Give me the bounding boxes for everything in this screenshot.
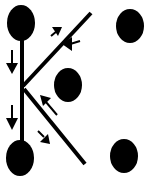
dot-center bbox=[54, 68, 82, 102]
k-stroke-diagram bbox=[0, 0, 148, 183]
dot-top-right bbox=[116, 9, 144, 43]
dot-bottom-right bbox=[110, 139, 138, 173]
arrow-down-upper-icon bbox=[6, 50, 18, 74]
arrow-down-right-icon bbox=[38, 131, 50, 144]
arrow-up-right-icon bbox=[51, 27, 62, 36]
arrow-down-lower-icon bbox=[6, 105, 18, 130]
